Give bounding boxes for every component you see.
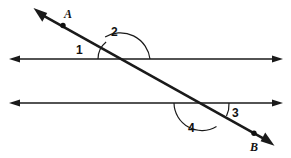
angle-1-label: 1 <box>76 44 83 56</box>
geometry-canvas <box>0 0 291 158</box>
lower-line-left-arrowhead <box>9 99 20 106</box>
lower-parallel-line <box>9 99 283 106</box>
upper-line-right-arrowhead <box>272 55 283 62</box>
geometry-figure: 1 2 3 4 A B <box>0 0 291 158</box>
upper-line-left-arrowhead <box>9 55 20 62</box>
transversal-line-ab <box>34 8 275 146</box>
angle-4-arc <box>174 103 217 131</box>
point-b-dot <box>251 131 256 136</box>
angle-4-label: 4 <box>188 122 195 134</box>
transversal-upper-arrowhead <box>34 8 48 22</box>
transversal-segment <box>42 15 265 140</box>
point-b-label: B <box>250 141 258 153</box>
angle-2-label: 2 <box>111 26 118 38</box>
angle-3-arc <box>227 103 230 116</box>
point-a-label: A <box>64 8 72 20</box>
transversal-lower-arrowhead <box>261 133 275 146</box>
point-a-dot <box>60 23 65 28</box>
lower-line-right-arrowhead <box>272 99 283 106</box>
angle-3-label: 3 <box>232 107 239 119</box>
upper-parallel-line <box>9 55 283 62</box>
